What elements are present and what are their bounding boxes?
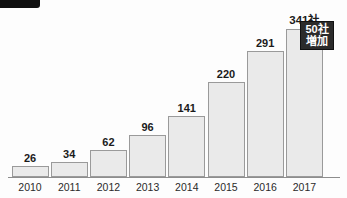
callout-line-2: 増加: [306, 36, 328, 47]
x-tick-label: 2012: [88, 181, 129, 193]
bar-chart-plot: 26346296141220291341社 201020112012201320…: [0, 0, 347, 198]
x-tick-label: 2016: [245, 181, 286, 193]
bar-group: 291: [247, 31, 284, 177]
bar-value-label: 26: [12, 152, 49, 164]
bar-group: 62: [90, 130, 127, 177]
chart-screenshot: 26346296141220291341社 201020112012201320…: [0, 0, 347, 198]
bar-value-label: 96: [129, 121, 166, 133]
x-tick-label: 2015: [206, 181, 247, 193]
bar-value-label: 34: [51, 148, 88, 160]
bar-value-label: 291: [247, 37, 284, 49]
bar: [129, 135, 166, 177]
bar: [12, 166, 49, 177]
bar-group: 26: [12, 146, 49, 177]
bar-group: 96: [129, 115, 166, 177]
bar: [90, 150, 127, 177]
bar-value-label: 62: [90, 136, 127, 148]
bar: [247, 51, 284, 177]
bar-value-label: 220: [208, 68, 245, 80]
bar-value-label: 141: [168, 102, 205, 114]
increase-callout-box: 50社 増加: [300, 21, 334, 50]
x-axis-line: [8, 177, 340, 178]
x-tick-label: 2010: [10, 181, 51, 193]
bar: [286, 29, 323, 177]
x-tick-label: 2017: [284, 181, 325, 193]
bar-group: 34: [51, 142, 88, 177]
x-tick-label: 2014: [166, 181, 207, 193]
bar: [168, 116, 205, 177]
bar: [51, 162, 88, 177]
bar-group: 141: [168, 96, 205, 177]
bar-group: 220: [208, 62, 245, 177]
x-tick-label: 2011: [49, 181, 90, 193]
bar: [208, 82, 245, 177]
callout-line-1: 50社: [305, 24, 328, 35]
x-tick-label: 2013: [127, 181, 168, 193]
